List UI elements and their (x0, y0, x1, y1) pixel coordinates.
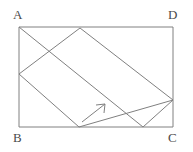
vertex-label-d: D (168, 8, 177, 21)
rectangle-abcd (19, 27, 173, 127)
vertex-label-a: A (13, 8, 22, 21)
geometry-figure: A D B C (0, 0, 193, 152)
segment-a-to-t (19, 27, 143, 127)
vertex-label-b: B (13, 131, 22, 144)
direction-arrow-shaft (82, 104, 105, 122)
vertex-label-c: C (168, 131, 177, 144)
segment-q-to-r (80, 28, 173, 100)
segment-p-to-s (19, 74, 79, 127)
geometry-canvas (0, 0, 193, 152)
